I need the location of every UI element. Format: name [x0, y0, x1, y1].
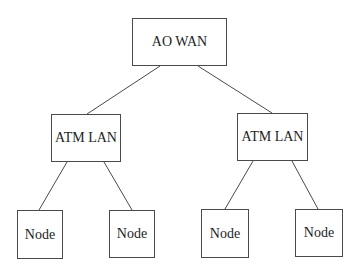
lan-label-right: ATM LAN — [242, 129, 304, 145]
edge-wan-to-left-lan — [87, 66, 160, 114]
edge-right-lan-to-node-3 — [225, 161, 253, 209]
node-box-3: Node — [201, 209, 249, 258]
network-hierarchy-diagram: AO WAN ATM LAN ATM LAN Node Node Node No… — [0, 0, 359, 271]
edge-left-lan-to-node-2 — [104, 162, 132, 210]
edge-wan-to-right-lan — [198, 66, 272, 113]
edge-right-lan-to-node-4 — [292, 161, 318, 209]
node-box-4: Node — [295, 209, 343, 257]
node-label-3: Node — [210, 226, 240, 242]
node-label-4: Node — [304, 225, 334, 241]
lan-box-left: ATM LAN — [51, 114, 121, 162]
node-label-2: Node — [117, 226, 147, 242]
root-wan-box: AO WAN — [132, 18, 227, 66]
node-label-1: Node — [25, 227, 55, 243]
root-wan-label: AO WAN — [152, 34, 207, 50]
lan-box-right: ATM LAN — [237, 113, 308, 161]
node-box-1: Node — [17, 210, 63, 259]
lan-label-left: ATM LAN — [55, 130, 117, 146]
node-box-2: Node — [109, 210, 155, 258]
edge-left-lan-to-node-1 — [39, 162, 67, 210]
